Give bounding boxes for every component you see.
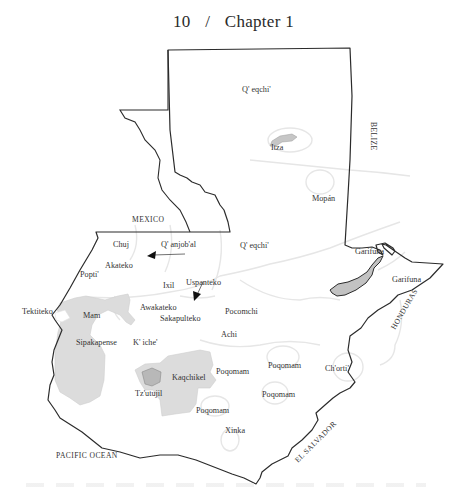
label-garifuna-2: Garifuna [392,275,421,284]
label-kaqchikel: Kaqchikel [172,373,206,382]
label-mopan: Mopán [312,194,335,203]
label-popti: Popti' [80,270,99,279]
usumacinta-border [120,50,190,232]
label-ixil: Ixil [163,281,175,290]
label-pacific-ocean: PACIFIC OCEAN [56,451,118,460]
region-boundaries [86,128,410,451]
guatemala-language-map: MEXICO BELIZE HONDURAS EL SALVADOR PACIF… [0,0,467,494]
label-sipakapense: Sipakapense [76,338,117,347]
label-poqomam-1: Poqomam [216,367,250,376]
label-qeqchi-central: Q' eqchi' [240,241,269,250]
label-poqomam-3: Poqomam [262,390,296,399]
label-mexico: MEXICO [132,215,164,224]
label-chorti: Ch'orti' [325,364,349,373]
label-itza: Itza [271,143,284,152]
label-honduras: HONDURAS [389,287,419,331]
label-uspanteko: Uspanteko [186,278,221,287]
label-tektiteko: Tektiteko [22,307,53,316]
label-sakapulteko: Sakapulteko [160,314,200,323]
label-poqomam-4: Poqomam [196,406,230,415]
label-mam: Mam [83,311,101,320]
label-awakateko: Awakateko [140,303,177,312]
lake-izabal [330,256,383,296]
caption-bleedthrough [26,483,426,487]
label-xinka: Xinka [225,426,245,435]
label-qanjobal: Q' anjob'al [161,240,197,249]
label-qeqchi-north: Q' eqchi' [242,85,271,94]
label-garifuna-1: Garifuna [355,247,384,256]
label-belize: BELIZE [369,122,378,151]
label-poqomam-2: Poqomam [268,361,302,370]
label-achi: Achi [221,330,238,339]
qanjobal-arrow [147,251,185,259]
label-akateko: Akateko [105,261,133,270]
label-tzutujil: Tz'utujil [135,389,163,398]
label-kiche: K' iche' [133,338,158,347]
label-pocomchi: Pocomchi [225,307,258,316]
label-chuj: Chuj [113,240,129,249]
